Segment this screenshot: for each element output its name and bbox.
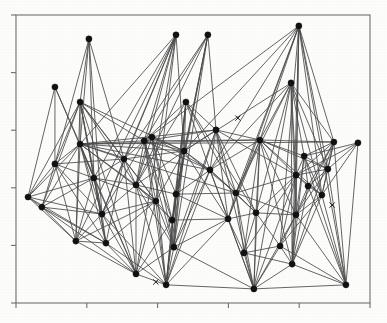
graph-node <box>253 210 259 216</box>
graph-node <box>169 217 175 223</box>
graph-node <box>86 36 92 42</box>
graph-node <box>289 261 295 267</box>
graph-node <box>277 243 283 249</box>
figure-container <box>0 0 387 323</box>
graph-node <box>153 198 159 204</box>
graph-node <box>305 183 311 189</box>
graph-node <box>343 282 349 288</box>
graph-node <box>207 167 213 173</box>
graph-node <box>149 134 155 140</box>
graph-node <box>77 99 83 105</box>
graph-node <box>257 137 263 143</box>
graph-node <box>233 190 239 196</box>
graph-node <box>288 80 294 86</box>
graph-node <box>225 216 231 222</box>
graph-node <box>73 238 79 244</box>
graph-node <box>133 182 139 188</box>
graph-node <box>163 282 169 288</box>
graph-node <box>319 192 325 198</box>
graph-node <box>99 211 105 217</box>
graph-node <box>77 141 83 147</box>
graph-node <box>251 286 257 292</box>
graph-node <box>133 271 139 277</box>
graph-node <box>181 148 187 154</box>
graph-node <box>293 172 299 178</box>
graph-node <box>25 194 31 200</box>
graph-node <box>205 32 211 38</box>
graph-node <box>325 166 331 172</box>
graph-node <box>103 240 109 246</box>
graph-node <box>296 23 302 29</box>
graph-plot-svg <box>0 0 387 323</box>
graph-node <box>52 161 58 167</box>
graph-node <box>355 140 361 146</box>
graph-node <box>91 175 97 181</box>
graph-node <box>301 153 307 159</box>
graph-node <box>52 84 58 90</box>
graph-node <box>171 244 177 250</box>
graph-node <box>39 204 45 210</box>
graph-node <box>173 32 179 38</box>
graph-node <box>121 156 127 162</box>
graph-node <box>183 99 189 105</box>
graph-node <box>141 138 147 144</box>
graph-node <box>213 127 219 133</box>
graph-node <box>293 212 299 218</box>
graph-node <box>173 191 179 197</box>
graph-node <box>241 250 247 256</box>
graph-node <box>331 139 337 145</box>
